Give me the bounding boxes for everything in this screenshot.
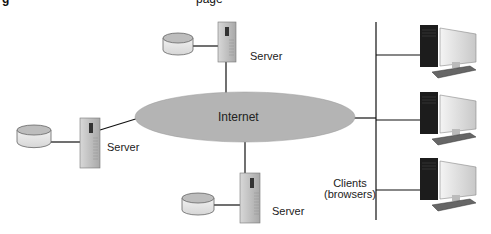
server-bottom-label: Server (272, 205, 304, 217)
server-bottom (182, 173, 260, 223)
server-left (17, 118, 100, 168)
clients-label: Clients (browsers) (324, 178, 376, 200)
client-computer-2 (420, 92, 476, 145)
client-computer-1 (420, 25, 476, 78)
client-computer-3 (420, 158, 476, 211)
server-tower-icon (240, 173, 260, 223)
server-tower-icon (218, 22, 236, 62)
disk-icon (17, 125, 51, 148)
disk-icon (182, 193, 214, 215)
server-top-label: Server (250, 50, 282, 62)
disk-icon (163, 33, 193, 55)
server-left-label: Server (107, 141, 139, 153)
server-tower-icon (80, 118, 100, 168)
server-top (163, 22, 236, 62)
clients-label-line2: (browsers) (324, 189, 376, 200)
internet-label: Internet (218, 110, 259, 124)
